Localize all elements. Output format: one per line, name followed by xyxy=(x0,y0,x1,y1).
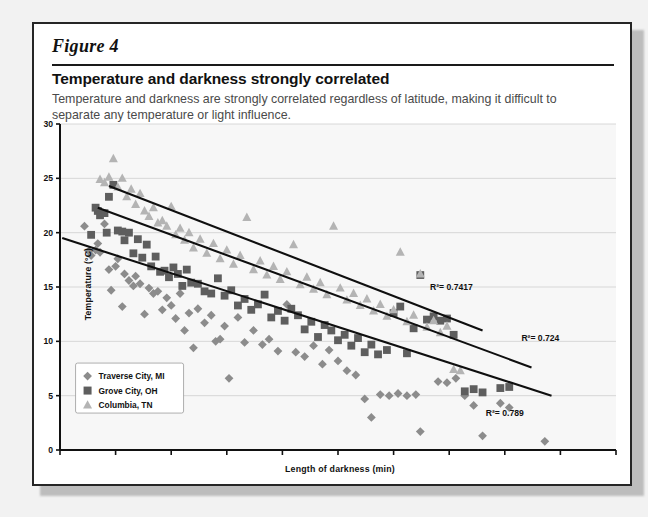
legend-label-2: Grove City, OH xyxy=(99,386,158,396)
data-point-square xyxy=(496,384,504,392)
data-point-square xyxy=(165,273,173,281)
data-point-square xyxy=(138,254,146,262)
data-point-square xyxy=(367,341,375,349)
x-axis-tick-label: 825 xyxy=(442,458,457,460)
x-axis-tick-label: 700 xyxy=(164,458,179,460)
legend: Traverse City, MIGrove City, OHColumbia,… xyxy=(76,363,184,413)
screenshot-root: Figure 4 Temperature and darkness strong… xyxy=(0,0,648,517)
figure-card: Figure 4 Temperature and darkness strong… xyxy=(32,22,632,486)
data-point-square xyxy=(505,383,513,391)
data-point-square xyxy=(281,317,289,325)
data-point-square xyxy=(361,348,369,356)
y-axis-tick-label: 25 xyxy=(43,173,53,183)
data-point-square xyxy=(134,235,142,243)
data-point-square xyxy=(334,336,342,344)
data-point-square xyxy=(103,229,111,237)
x-axis-tick-label: 850 xyxy=(498,458,513,460)
x-axis-tick-label: 675 xyxy=(108,458,123,460)
x-axis-tick-label: 725 xyxy=(220,458,235,460)
data-point-square xyxy=(383,346,391,354)
y-axis-tick-label: 15 xyxy=(43,282,53,292)
y-axis-tick-label: 30 xyxy=(43,119,53,129)
y-axis-tick-label: 0 xyxy=(48,445,53,455)
data-point-square xyxy=(234,302,242,310)
data-point-square xyxy=(121,236,129,244)
data-point-square xyxy=(374,350,382,358)
data-point-square xyxy=(354,334,362,342)
y-axis-tick-label: 20 xyxy=(43,228,53,238)
data-point-square xyxy=(221,292,229,300)
data-point-square xyxy=(267,314,275,322)
data-point-square xyxy=(301,325,309,333)
data-point-square xyxy=(327,327,335,335)
data-point-square xyxy=(479,389,487,397)
r-squared-annotation-3: R²= 0.789 xyxy=(486,408,524,418)
data-point-square xyxy=(105,193,113,201)
x-axis-tick-label: 800 xyxy=(386,458,401,460)
y-axis-tick-label: 5 xyxy=(48,391,53,401)
x-axis-tick-label: 875 xyxy=(553,458,568,460)
r-squared-annotation-2: R²= 0.724 xyxy=(521,333,559,343)
data-point-square xyxy=(178,282,186,290)
data-point-square xyxy=(207,290,215,298)
x-axis-tick-label: 750 xyxy=(275,458,290,460)
data-point-square xyxy=(129,249,137,257)
legend-label-3: Columbia, TN xyxy=(99,400,153,410)
scatter-chart: 0510152025306506757007257507758008258508… xyxy=(34,24,634,460)
data-point-square xyxy=(314,333,322,341)
data-point-square xyxy=(247,306,255,314)
legend-label-1: Traverse City, MI xyxy=(99,371,165,381)
x-axis-title: Length of darkness (min) xyxy=(60,464,620,474)
data-point-square xyxy=(143,241,151,249)
y-axis-tick-label: 10 xyxy=(43,336,53,346)
data-point-square xyxy=(125,229,133,237)
data-point-square xyxy=(470,385,478,393)
data-point-square xyxy=(201,287,209,295)
chart-container: 0510152025306506757007257507758008258508… xyxy=(34,24,634,488)
data-point-square xyxy=(341,331,349,339)
data-point-square xyxy=(214,274,222,282)
legend-marker-square xyxy=(84,387,92,395)
x-axis-tick-label: 775 xyxy=(331,458,346,460)
data-point-square xyxy=(396,303,404,311)
data-point-square xyxy=(261,291,269,299)
r-squared-annotation-1: R²= 0.7417 xyxy=(430,282,473,292)
x-axis-tick-label: 650 xyxy=(53,458,68,460)
x-axis-tick-label: 900 xyxy=(609,458,624,460)
data-point-square xyxy=(152,253,160,261)
data-point-square xyxy=(183,266,191,274)
data-point-square xyxy=(347,342,355,350)
y-axis-title: Temperature (°C) xyxy=(83,224,93,344)
data-point-square xyxy=(461,387,469,395)
data-point-square xyxy=(118,228,126,236)
